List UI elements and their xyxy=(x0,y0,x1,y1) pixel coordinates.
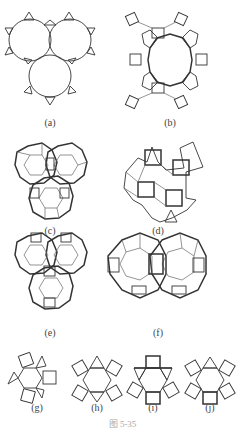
panel-i-label: (i) xyxy=(138,402,168,413)
panel-d-label: (d) xyxy=(143,225,173,236)
panel-h-drawing xyxy=(72,356,122,402)
panel-a-label: (a) xyxy=(35,117,65,128)
panel-b-drawing xyxy=(125,12,207,108)
panel-c-label: (c) xyxy=(35,225,65,236)
figure-drawing xyxy=(0,0,245,432)
panel-j-label: (j) xyxy=(195,402,225,413)
panel-a-drawing xyxy=(5,12,95,105)
panel-e-label: (e) xyxy=(35,327,65,338)
figure-caption: 图 5-35 xyxy=(0,417,245,430)
panel-e-drawing xyxy=(15,233,87,309)
panel-c-drawing xyxy=(15,143,87,219)
panel-f-label: (f) xyxy=(143,327,173,338)
panel-h-label: (h) xyxy=(82,402,112,413)
panel-b-label: (b) xyxy=(155,117,185,128)
panel-j-drawing xyxy=(185,357,235,404)
panel-i-drawing xyxy=(127,356,179,404)
panel-g-label: (g) xyxy=(22,402,52,413)
panel-d-drawing xyxy=(124,142,203,222)
panel-g-drawing xyxy=(8,352,56,403)
panel-f-drawing xyxy=(108,233,206,298)
